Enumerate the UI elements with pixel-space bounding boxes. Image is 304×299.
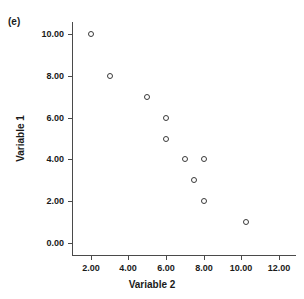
x-tick-label: 8.00 — [195, 263, 213, 273]
x-tick-label: 10.00 — [230, 263, 253, 273]
x-tick-label: 4.00 — [119, 263, 137, 273]
x-tick-mark — [279, 256, 280, 260]
y-tick-mark — [68, 159, 72, 160]
y-axis-title: Variable 1 — [15, 115, 26, 162]
y-tick-mark — [68, 201, 72, 202]
x-tick-mark — [204, 256, 205, 260]
y-tick-label: 4.00 — [46, 154, 64, 164]
data-point — [201, 156, 207, 162]
y-tick-mark — [68, 243, 72, 244]
y-tick-label: 10.00 — [41, 29, 64, 39]
x-axis-title: Variable 2 — [0, 279, 304, 290]
data-point — [243, 219, 249, 225]
y-tick-mark — [68, 118, 72, 119]
x-tick-label: 12.00 — [268, 263, 291, 273]
data-point — [144, 94, 150, 100]
data-point — [88, 31, 94, 37]
x-tick-label: 6.00 — [157, 263, 175, 273]
y-axis-line — [72, 22, 73, 255]
x-tick-mark — [166, 256, 167, 260]
data-point — [182, 156, 188, 162]
y-tick-label: 6.00 — [46, 113, 64, 123]
x-tick-mark — [128, 256, 129, 260]
data-point — [163, 115, 169, 121]
data-point — [201, 198, 207, 204]
y-tick-label: 8.00 — [46, 71, 64, 81]
y-tick-label: 2.00 — [46, 196, 64, 206]
x-tick-label: 2.00 — [82, 263, 100, 273]
data-point — [191, 177, 197, 183]
data-point — [163, 136, 169, 142]
scatter-chart: (e) 0.002.004.006.008.0010.00 2.004.006.… — [0, 0, 304, 299]
x-tick-mark — [91, 256, 92, 260]
data-point — [107, 73, 113, 79]
y-tick-label: 0.00 — [46, 238, 64, 248]
x-tick-mark — [241, 256, 242, 260]
y-tick-mark — [68, 34, 72, 35]
x-axis-line — [72, 255, 296, 256]
y-tick-mark — [68, 76, 72, 77]
panel-letter-label: (e) — [8, 16, 20, 27]
